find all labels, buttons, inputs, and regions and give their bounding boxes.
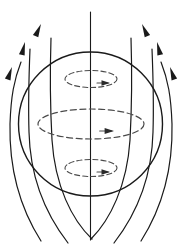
figure-canvas [0,0,181,246]
dipole-field-figure [0,0,181,246]
